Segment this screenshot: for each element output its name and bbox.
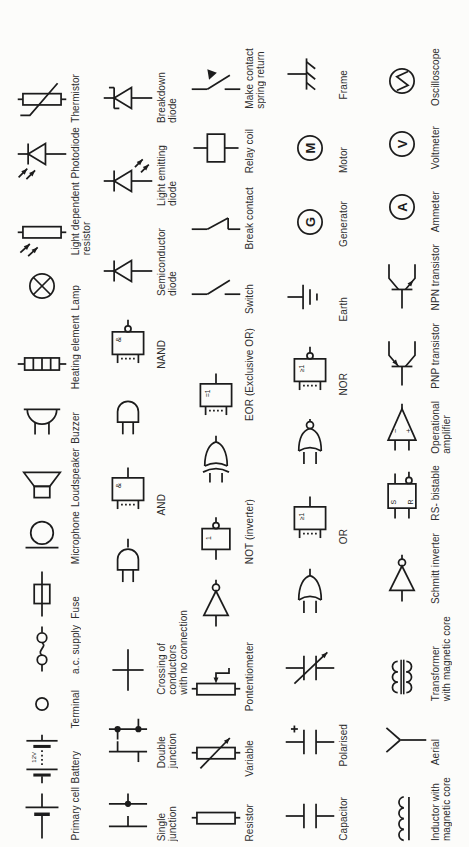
transformer-magnetic-core-label: Transformer with magnetic core bbox=[430, 616, 452, 701]
schmitt-inverter-symbol bbox=[376, 553, 428, 605]
symbol-letter: & bbox=[114, 336, 123, 342]
voltmeter: VVoltmeter bbox=[376, 118, 466, 170]
buzzer: Buzzer bbox=[16, 393, 106, 445]
potentiometer-label: Pontentiometer bbox=[244, 642, 255, 711]
pnp-transistor-symbol bbox=[376, 337, 428, 389]
eor-gate-iec-symbol: =1 bbox=[190, 370, 242, 422]
ammeter-symbol: A bbox=[376, 181, 428, 233]
ac-supply: a.c. supply bbox=[16, 623, 106, 675]
earth-symbol bbox=[284, 271, 336, 323]
photodiode-label: Photodiode bbox=[70, 127, 81, 179]
schmitt-inverter-label: Schmitt inverter bbox=[430, 533, 441, 604]
aerial-label: Aerial bbox=[430, 739, 441, 765]
transformer-magnetic-core: Transformer with magnetic core bbox=[376, 616, 466, 702]
symbol-letter: 1 bbox=[205, 536, 212, 540]
polarised-capacitor-symbol bbox=[284, 716, 336, 768]
not-gate-iec: 1NOT (inverter) bbox=[190, 499, 280, 565]
motor-symbol: M bbox=[284, 122, 336, 174]
symbol-letter: & bbox=[114, 482, 123, 488]
thermistor-label: Thermistor bbox=[70, 74, 81, 123]
break-contact-symbol bbox=[190, 198, 242, 250]
rs-bistable: SRRS- bistable bbox=[376, 465, 466, 522]
schmitt-inverter: Schmitt inverter bbox=[376, 533, 466, 605]
symbol-letter: S bbox=[390, 500, 397, 505]
resistor-symbol bbox=[190, 790, 242, 842]
light-dependent-resistor-symbol bbox=[16, 205, 68, 257]
terminal: Terminal bbox=[16, 678, 106, 730]
frame-symbol bbox=[284, 48, 336, 100]
single-junction: Single junction bbox=[102, 790, 192, 842]
rs-bistable-label: RS- bistable bbox=[430, 465, 441, 521]
npn-transistor-label: NPN transistor bbox=[430, 244, 441, 310]
microphone: Microphone bbox=[16, 511, 106, 565]
photodiode-symbol bbox=[16, 128, 68, 180]
and-gate-iec: &AND bbox=[102, 464, 192, 516]
operational-amplifier-symbol: −+ bbox=[376, 402, 428, 454]
nand-gate-shape bbox=[102, 391, 192, 443]
or-gate-shape bbox=[284, 567, 374, 619]
variable-resistor: Variable bbox=[190, 725, 280, 777]
nand-gate-iec-symbol: & bbox=[102, 318, 154, 370]
symbol-letter: R bbox=[407, 500, 414, 505]
column-2: Breakdown diodeLight emitting diodeSemic… bbox=[102, 48, 192, 842]
symbol-letter: M bbox=[303, 143, 318, 154]
variable-capacitor-symbol bbox=[284, 642, 336, 694]
generator: GGenerator bbox=[284, 196, 374, 248]
polarised-capacitor: Polarised bbox=[284, 716, 374, 768]
breakdown-diode: Breakdown diode bbox=[102, 72, 192, 124]
motor: MMotor bbox=[284, 122, 374, 174]
thermistor-symbol bbox=[16, 72, 68, 124]
semiconductor-diode-label: Semiconductor diode bbox=[156, 228, 178, 296]
battery: 12VBattery bbox=[16, 733, 106, 785]
loudspeaker-symbol bbox=[16, 456, 68, 508]
symbol-letter: G bbox=[303, 217, 318, 227]
light-emitting-diode-symbol bbox=[102, 155, 154, 207]
frame-label: Frame bbox=[338, 70, 349, 99]
relay-coil: Relay coil bbox=[190, 122, 280, 174]
symbol-letter: 12V bbox=[31, 751, 37, 762]
and-gate-iec-label: AND bbox=[156, 494, 167, 515]
nor-gate-shape bbox=[284, 419, 374, 471]
fuse-label: Fuse bbox=[70, 596, 81, 619]
primary-cell-label: Primary cell bbox=[70, 787, 81, 840]
frame: Frame bbox=[284, 48, 374, 100]
oscilloscope-label: Oscilloscope bbox=[430, 48, 441, 106]
scanned-symbol-chart-page: { "page": { "background": "#fcfcfa", "in… bbox=[0, 0, 469, 847]
double-junction-symbol bbox=[102, 717, 154, 769]
single-junction-label: Single junction bbox=[156, 806, 178, 841]
make-contact-spring-return-symbol bbox=[190, 58, 242, 110]
aerial: Aerial bbox=[376, 714, 466, 766]
buzzer-label: Buzzer bbox=[70, 412, 81, 444]
pnp-transistor-label: PNP transistor bbox=[430, 323, 441, 389]
not-gate-shape bbox=[190, 578, 280, 630]
double-junction-label: Double junction bbox=[156, 733, 178, 768]
nor-gate-iec: ≥1NOR bbox=[284, 345, 374, 397]
break-contact-label: Break contact bbox=[244, 187, 255, 249]
thermistor: Thermistor bbox=[16, 72, 106, 124]
breakdown-diode-symbol bbox=[102, 72, 154, 124]
inductor-magnetic-core-label: Inductor with magnetic core bbox=[430, 777, 452, 841]
make-contact-spring-return: Make contact spring return bbox=[190, 48, 280, 110]
oscilloscope-symbol bbox=[376, 55, 428, 107]
loudspeaker: Loudspeaker bbox=[16, 448, 106, 508]
or-gate-iec-symbol: ≥1 bbox=[284, 493, 336, 545]
symbol-letter: V bbox=[395, 139, 410, 148]
resistor: Resistor bbox=[190, 790, 280, 842]
relay-coil-label: Relay coil bbox=[244, 129, 255, 173]
column-3: Make contact spring returnRelay coilBrea… bbox=[190, 48, 280, 842]
npn-transistor: NPN transistor bbox=[376, 244, 466, 311]
column-1: ThermistorPhotodiodeLight dependent resi… bbox=[16, 48, 106, 842]
voltmeter-label: Voltmeter bbox=[430, 126, 441, 169]
symbol-letter: + bbox=[404, 428, 413, 433]
column-4: FrameMMotorGGeneratorEarth≥1NOR≥1ORPolar… bbox=[284, 48, 374, 842]
capacitor: Capacitor bbox=[284, 790, 374, 842]
capacitor-label: Capacitor bbox=[338, 797, 349, 841]
potentiometer-symbol bbox=[190, 661, 242, 713]
variable-resistor-symbol bbox=[190, 725, 242, 777]
nor-gate-iec-label: NOR bbox=[338, 373, 349, 396]
eor-gate-iec: =1EOR (Exclusive OR) bbox=[190, 328, 280, 422]
lamp-label: Lamp bbox=[70, 285, 81, 310]
battery-symbol: 12V bbox=[16, 733, 68, 785]
not-gate-iec-symbol: 1 bbox=[190, 513, 242, 565]
potentiometer: Pontentiometer bbox=[190, 642, 280, 712]
